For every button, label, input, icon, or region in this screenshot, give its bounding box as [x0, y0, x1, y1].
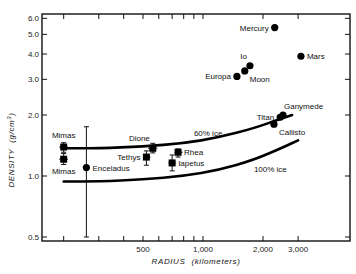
point-label: Dione: [129, 134, 150, 143]
circle-marker: [277, 114, 284, 121]
point-io: Io: [240, 52, 253, 70]
circle-marker: [246, 62, 253, 69]
point-label: Europa: [205, 72, 231, 81]
point-label: Moon: [250, 75, 270, 84]
point-mars: Mars: [297, 52, 324, 61]
y-axis-title: DENSITY(g/cm3): [6, 112, 16, 187]
y-tick-label: 1.0: [28, 172, 40, 181]
point-europa: Europa: [205, 72, 240, 81]
point-mimas: Mimas: [52, 154, 76, 177]
point-titan: Titan: [257, 113, 284, 122]
point-mercury: Mercury: [240, 24, 278, 33]
curve-label: 60% ice: [194, 129, 223, 138]
point-label: Mercury: [240, 24, 269, 33]
y-tick-label: 2.0: [28, 111, 40, 120]
point-iapetus: Iapetus: [168, 155, 204, 171]
curve-label: 100% ice: [254, 165, 287, 174]
y-tick-label: 4.0: [28, 50, 40, 59]
x-tick-label: 3,000: [288, 245, 309, 254]
y-tick-label: 5.0: [28, 30, 40, 39]
point-label: Rhea: [184, 148, 204, 157]
circle-marker: [241, 67, 248, 74]
circle-marker: [270, 121, 277, 128]
square-marker: [60, 144, 67, 151]
point-label: Callisto: [279, 128, 306, 137]
x-tick-label: 500: [136, 245, 150, 254]
point-moon: Moon: [241, 67, 270, 84]
square-marker: [149, 145, 156, 152]
point-rhea: Rhea: [175, 148, 204, 157]
point-label: Iapetus: [178, 159, 204, 168]
point-dione: Dione: [129, 134, 157, 153]
point-label: Mars: [307, 52, 325, 61]
y-tick-label: 6.0: [28, 14, 40, 23]
point-label: Tethys: [117, 153, 140, 162]
density-radius-chart: 5001,0002,0003,0000.51.02.03.04.05.06.0 …: [0, 0, 356, 274]
square-marker: [60, 156, 67, 163]
circle-marker: [271, 24, 278, 31]
point-ganymede: Ganymede: [279, 102, 323, 119]
point-label: Enceladus: [92, 164, 129, 173]
point-label: Titan: [257, 113, 275, 122]
point-label: Mimas: [52, 167, 76, 176]
point-label: Ganymede: [284, 102, 324, 111]
square-marker: [169, 159, 176, 166]
x-tick-label: 1,000: [193, 245, 214, 254]
x-tick-label: 2,000: [253, 245, 274, 254]
point-callisto: Callisto: [270, 121, 305, 138]
square-marker: [143, 154, 150, 161]
y-tick-label: 0.5: [28, 233, 40, 242]
circle-marker: [233, 73, 240, 80]
circle-marker: [297, 53, 304, 60]
y-tick-label: 3.0: [28, 75, 40, 84]
point-label: Mimas: [52, 131, 76, 140]
point-label: Io: [240, 52, 247, 61]
circle-marker: [83, 164, 90, 171]
x-axis-title: RADIUS(kilometers): [152, 257, 241, 266]
data-points: MercuryMarsIoMoonEuropaGanymedeTitanCall…: [52, 24, 325, 237]
square-marker: [175, 149, 182, 156]
